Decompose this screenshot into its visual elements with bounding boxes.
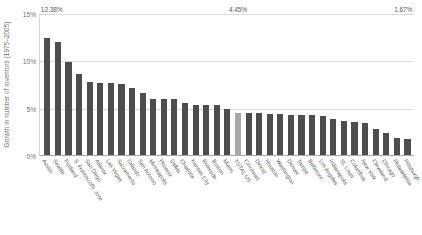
x-axis-tick-slot: Dallas (169, 157, 180, 235)
x-axis-tick-slot: New York (360, 157, 371, 235)
bar[interactable] (182, 103, 188, 155)
bar-slot (243, 14, 254, 155)
x-axis-tick-slot: TOTAL US (232, 157, 243, 235)
y-axis-title-text: Growth in number of inventors (1975–2005… (4, 21, 11, 147)
bar-slot (212, 14, 223, 155)
bar[interactable] (118, 84, 124, 155)
x-axis-tick-slot: San Antonio (137, 157, 148, 235)
y-axis-tick-labels: 0%5%10%15% (14, 14, 38, 156)
bar-slot (275, 14, 286, 155)
bar-slot (328, 14, 339, 155)
x-axis-tick-slot: Chicago (381, 157, 392, 235)
bar[interactable] (224, 109, 230, 155)
x-axis-tick-slot: Miami (222, 157, 233, 235)
bar[interactable] (298, 115, 304, 155)
plot-area: 12.38%4.45%1.67% (39, 14, 414, 156)
bar-slot (95, 14, 106, 155)
bar[interactable] (193, 105, 199, 155)
bar-slot (360, 14, 371, 155)
bar[interactable] (150, 99, 156, 155)
x-axis-tick-slot: Houston (264, 157, 275, 235)
x-axis-tick-slot: Washington (275, 157, 286, 235)
x-axis-tick-slot: Indianapolis (328, 157, 339, 235)
bar-slot (116, 14, 127, 155)
bar-slot (127, 14, 138, 155)
bar-slot (159, 14, 170, 155)
x-axis-tick-slot: St. Louis (339, 157, 350, 235)
bar[interactable] (97, 83, 103, 155)
x-axis-tick-slot: Sacramento (115, 157, 126, 235)
bar-slot (339, 14, 350, 155)
bar-slot (381, 14, 392, 155)
bar[interactable] (330, 119, 336, 155)
bar[interactable] (140, 93, 146, 155)
bar-slot (106, 14, 117, 155)
bar[interactable] (373, 129, 379, 156)
x-axis-tick-slot: Kansas City (190, 157, 201, 235)
bar-slot (317, 14, 328, 155)
bar-slot (264, 14, 275, 155)
x-axis-tick-slot: Orlando (126, 157, 137, 235)
bar[interactable] (129, 88, 135, 155)
bar[interactable] (87, 82, 93, 155)
bar-value-label: 12.38% (41, 6, 63, 13)
x-axis-tick-slot: Philadelphia (392, 157, 403, 235)
bar[interactable] (320, 116, 326, 155)
bar-slot (74, 14, 85, 155)
bar-slot (286, 14, 297, 155)
bar[interactable] (246, 113, 252, 155)
y-axis-tick-label: 15% (23, 11, 36, 18)
x-axis-tick-slot: Denver (285, 157, 296, 235)
x-axis-tick-slot: Cleveland (370, 157, 381, 235)
y-axis-tick-label: 5% (26, 105, 36, 112)
x-axis-tick-slot: Boston (211, 157, 222, 235)
bar[interactable] (203, 105, 209, 155)
x-axis-tick-slot: Atlanta (94, 157, 105, 235)
y-axis-tick-label: 10% (23, 58, 36, 65)
bar[interactable] (351, 122, 357, 155)
x-axis-tick-slot: Los Angeles (317, 157, 328, 235)
bar[interactable] (341, 121, 347, 155)
bar[interactable] (256, 113, 262, 155)
x-axis-tick-slot: Columbus (349, 157, 360, 235)
bar-slot (180, 14, 191, 155)
bar[interactable] (214, 105, 220, 155)
bar-slot (201, 14, 212, 155)
x-axis-tick-slot: Minneapolis (147, 157, 158, 235)
x-axis-tick-slot: Baltimore (307, 157, 318, 235)
y-axis-title: Growth in number of inventors (1975–2005… (0, 0, 14, 168)
x-axis-tick-slot: Detroit (254, 157, 265, 235)
bar-slot (296, 14, 307, 155)
bar[interactable] (277, 114, 283, 155)
bar[interactable] (362, 123, 368, 155)
bar-slot (84, 14, 95, 155)
bar-chart: Growth in number of inventors (1975–2005… (0, 0, 422, 235)
x-axis-tick-labels: AustinSeattlePortlandS. Francisco/S. Jos… (40, 157, 414, 235)
bar[interactable] (161, 99, 167, 155)
x-axis-tick-slot: S. Francisco/S. Jose (73, 157, 84, 235)
bar-slot (53, 14, 64, 155)
bar[interactable] (55, 42, 61, 155)
bar[interactable] (383, 133, 389, 155)
bar[interactable] (171, 99, 177, 155)
bar-slot (148, 14, 159, 155)
bar-slot (392, 14, 403, 155)
bar[interactable] (404, 139, 410, 155)
bar[interactable] (44, 38, 50, 155)
bar[interactable] (309, 115, 315, 155)
x-axis-tick-slot: Portland (62, 157, 73, 235)
bar[interactable] (394, 138, 400, 155)
bar[interactable] (76, 74, 82, 155)
x-axis-tick-slot: Pittsburgh (402, 157, 413, 235)
bar-slot: 4.45% (233, 14, 244, 155)
bar-slot (349, 14, 360, 155)
y-axis-tick-label: 0% (26, 153, 36, 160)
bar[interactable] (267, 114, 273, 155)
bar-slot (222, 14, 233, 155)
x-axis-tick-slot: Cincinnati (243, 157, 254, 235)
bar[interactable] (108, 83, 114, 155)
bar[interactable] (288, 115, 294, 155)
bar[interactable] (65, 62, 71, 155)
bar-slot (137, 14, 148, 155)
bar[interactable] (235, 113, 241, 155)
